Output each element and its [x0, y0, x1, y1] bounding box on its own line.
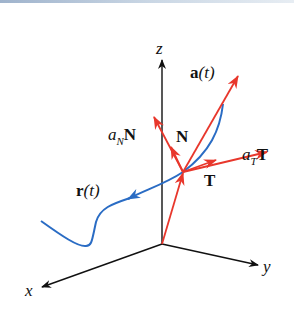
acceleration-label: a(t) — [190, 64, 215, 81]
curve-lower-segment — [41, 198, 130, 246]
normal-component-vec: N — [124, 125, 136, 144]
acceleration-label-arg: (t) — [199, 63, 215, 82]
acceleration-vector — [183, 76, 238, 172]
x-axis — [42, 244, 162, 287]
curve-direction-arrow — [128, 172, 183, 199]
position-label-main: r — [76, 181, 84, 200]
y-axis — [162, 244, 258, 265]
normal-component-coef: a — [108, 125, 117, 144]
coordinate-axes — [42, 60, 258, 287]
position-label: r(t) — [76, 182, 100, 199]
tangential-component-label: aTT — [242, 146, 268, 163]
tangential-component-vec: T — [257, 145, 268, 164]
diagram-canvas — [0, 0, 294, 333]
position-label-arg: (t) — [84, 181, 100, 200]
normal-component-label: aNN — [108, 126, 136, 143]
unit-tangent-label: T — [204, 172, 215, 189]
position-vector — [162, 173, 183, 244]
z-axis-label: z — [156, 40, 163, 57]
normal-component-sub: N — [117, 135, 124, 147]
x-axis-label: x — [25, 282, 33, 299]
unit-normal-label: N — [176, 128, 188, 145]
y-axis-label: y — [263, 258, 271, 275]
unit-normal-vector — [171, 147, 183, 172]
acceleration-label-main: a — [190, 63, 199, 82]
tangential-component-sub: T — [251, 155, 257, 167]
tangential-component-coef: a — [242, 145, 251, 164]
